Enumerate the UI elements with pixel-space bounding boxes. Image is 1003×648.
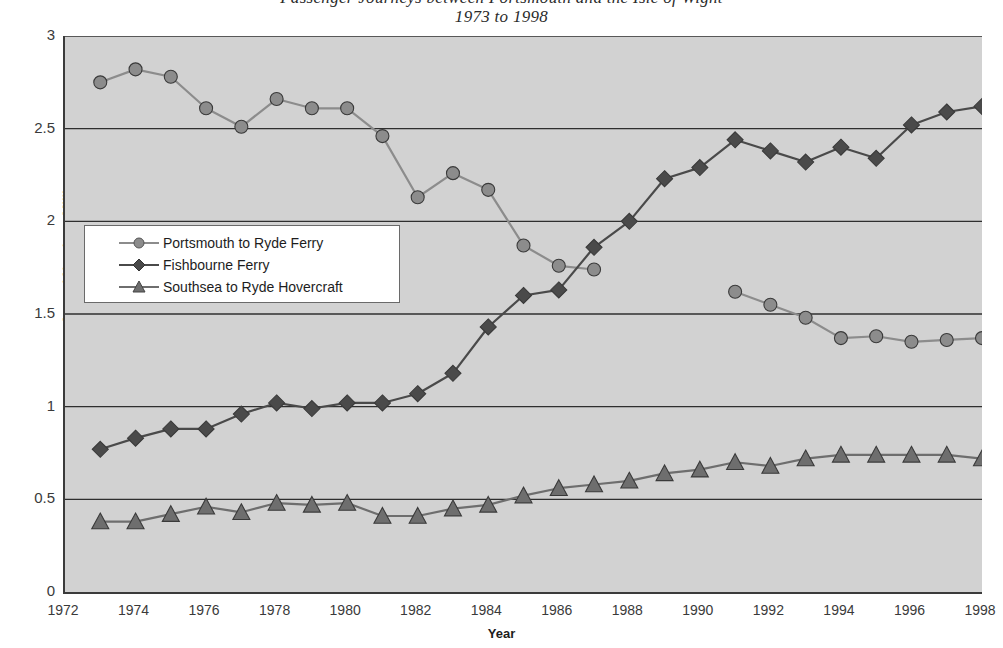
data-point	[411, 191, 424, 204]
x-tick-label: 1996	[879, 602, 939, 618]
data-point	[939, 104, 955, 120]
data-point	[410, 386, 426, 402]
data-point	[729, 285, 742, 298]
data-point	[905, 335, 918, 348]
x-tick-label: 1972	[33, 602, 93, 618]
data-point	[200, 102, 213, 115]
data-point	[198, 421, 214, 437]
legend-marker-circle-icon	[117, 233, 161, 253]
data-point	[128, 430, 144, 446]
data-point	[233, 406, 249, 422]
data-point	[164, 70, 177, 83]
data-point	[552, 259, 565, 272]
x-tick-label: 1994	[809, 602, 869, 618]
data-point	[446, 167, 459, 180]
legend-item-portsmouth[interactable]: Portsmouth to Ryde Ferry	[85, 232, 399, 254]
data-point	[798, 154, 814, 170]
data-point	[833, 139, 849, 155]
legend-item-fishbourne[interactable]: Fishbourne Ferry	[85, 254, 399, 276]
data-point	[376, 130, 389, 143]
data-point	[974, 98, 982, 114]
legend-marker-triangle-icon	[117, 277, 161, 297]
x-tick-label: 1990	[668, 602, 728, 618]
data-point	[762, 143, 778, 159]
plot-svg	[65, 36, 982, 592]
x-tick-label: 1992	[738, 602, 798, 618]
y-tick-label: 0.5	[3, 489, 55, 506]
data-point	[341, 102, 354, 115]
y-tick-label: 2	[3, 211, 55, 228]
data-point	[940, 333, 953, 346]
legend: Portsmouth to Ryde Ferry Fishbourne Ferr…	[84, 225, 400, 303]
series-line	[100, 455, 982, 522]
x-tick-label: 1982	[386, 602, 446, 618]
data-point	[235, 120, 248, 133]
data-point	[198, 498, 215, 514]
data-point	[94, 76, 107, 89]
data-point	[976, 332, 983, 345]
y-tick-label: 1.5	[3, 304, 55, 321]
data-point	[764, 298, 777, 311]
chart-subtitle: 1973 to 1998	[0, 7, 1003, 26]
y-tick-label: 2.5	[3, 119, 55, 136]
legend-marker-diamond-icon	[117, 255, 161, 275]
data-point	[727, 454, 744, 470]
x-tick-label: 1978	[245, 602, 305, 618]
legend-item-hovercraft[interactable]: Southsea to Ryde Hovercraft	[85, 276, 399, 298]
x-tick-label: 1984	[456, 602, 516, 618]
legend-label-portsmouth: Portsmouth to Ryde Ferry	[161, 235, 323, 251]
data-point	[269, 395, 285, 411]
y-tick-label: 3	[3, 26, 55, 43]
chart-title-block: Passenger Journeys between Portsmouth an…	[0, 0, 1003, 26]
x-tick-label: 1998	[950, 602, 1003, 618]
data-point	[374, 395, 390, 411]
y-tick-label: 1	[3, 397, 55, 414]
data-point	[517, 239, 530, 252]
legend-label-fishbourne: Fishbourne Ferry	[161, 257, 270, 273]
x-tick-label: 1988	[597, 602, 657, 618]
y-tick-label: 0	[3, 582, 55, 599]
series-circle	[94, 63, 982, 348]
data-point	[270, 93, 283, 106]
data-point	[92, 441, 108, 457]
chart-container: Passenger Journeys between Portsmouth an…	[0, 0, 1003, 648]
data-point	[588, 263, 601, 276]
series-triangle	[92, 446, 982, 528]
data-point	[339, 395, 355, 411]
data-point	[129, 63, 142, 76]
x-axis-title: Year	[0, 626, 1003, 641]
chart-title: Passenger Journeys between Portsmouth an…	[0, 0, 1003, 7]
x-tick-label: 1980	[315, 602, 375, 618]
x-tick-label: 1974	[104, 602, 164, 618]
plot-area	[63, 36, 982, 594]
data-point	[304, 401, 320, 417]
legend-label-hovercraft: Southsea to Ryde Hovercraft	[161, 279, 343, 295]
data-point	[163, 421, 179, 437]
data-point	[799, 311, 812, 324]
data-point	[870, 330, 883, 343]
data-point	[305, 102, 318, 115]
x-tick-label: 1986	[527, 602, 587, 618]
x-tick-label: 1976	[174, 602, 234, 618]
data-point	[482, 183, 495, 196]
data-point	[834, 332, 847, 345]
